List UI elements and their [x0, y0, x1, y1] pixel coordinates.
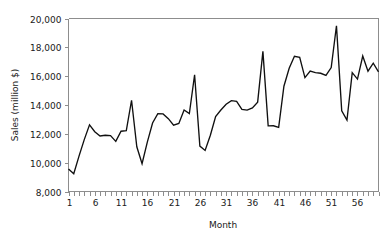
chart-canvas: 8,00010,00012,00014,00016,00018,00020,00…	[0, 0, 389, 241]
x-tick-label: 56	[352, 198, 364, 208]
y-axis-title: Sales (million $)	[10, 69, 20, 141]
x-tick-label: 26	[195, 198, 207, 208]
x-tick-label: 16	[142, 198, 154, 208]
x-axis: 1611162126313641465156	[67, 192, 380, 208]
y-axis: 8,00010,00012,00014,00016,00018,00020,00…	[30, 15, 69, 198]
x-tick-label: 1	[67, 198, 73, 208]
x-tick-label: 11	[116, 198, 127, 208]
series-group	[69, 26, 379, 174]
y-tick-label: 8,000	[36, 188, 62, 198]
x-tick-label: 21	[169, 198, 180, 208]
x-tick-label: 46	[300, 198, 312, 208]
y-tick-label: 16,000	[30, 72, 62, 82]
x-tick-label: 6	[93, 198, 99, 208]
y-tick-label: 14,000	[30, 101, 62, 111]
y-tick-label: 10,000	[30, 159, 62, 169]
y-tick-label: 12,000	[30, 130, 62, 140]
x-tick-label: 51	[326, 198, 337, 208]
x-axis-title: Month	[209, 220, 237, 230]
series-line-sales	[69, 26, 379, 174]
x-tick-label: 31	[221, 198, 232, 208]
x-tick-label: 41	[274, 198, 285, 208]
line-chart: 8,00010,00012,00014,00016,00018,00020,00…	[0, 0, 389, 241]
y-tick-label: 20,000	[30, 15, 62, 25]
x-tick-label: 36	[247, 198, 259, 208]
plot-frame	[69, 19, 379, 192]
y-tick-label: 18,000	[30, 43, 62, 53]
